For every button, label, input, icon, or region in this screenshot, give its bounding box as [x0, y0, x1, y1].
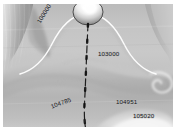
figure-margin-left	[0, 0, 3, 135]
figure-margin-right	[173, 0, 176, 135]
contour-label-105020: 105020	[133, 113, 154, 119]
figure-margin-bottom	[0, 127, 176, 135]
contour-label-103000: 103000	[98, 51, 119, 57]
plot-canvas: 100000 103000 104785 104951 105020	[0, 0, 176, 135]
contour-plot-figure: 100000 103000 104785 104951 105020	[0, 0, 176, 135]
figure-margin-top	[0, 0, 176, 4]
contour-label-104951: 104951	[116, 99, 137, 105]
